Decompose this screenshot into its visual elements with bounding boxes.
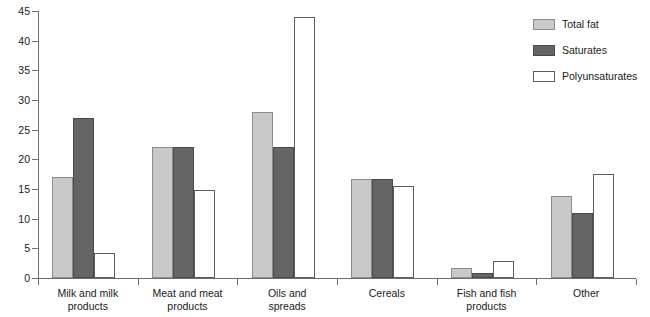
bar-total-fat <box>451 268 472 278</box>
y-axis-tick-label: 40 <box>4 36 30 46</box>
bar-group <box>437 11 537 278</box>
x-axis-tick <box>38 279 39 285</box>
x-axis-tick <box>337 279 338 285</box>
bar-polyunsaturates <box>194 190 215 278</box>
x-axis-tick <box>138 279 139 285</box>
bar-saturates <box>173 147 194 278</box>
legend-label: Total fat <box>562 19 599 30</box>
y-axis-tick-label: 20 <box>4 154 30 164</box>
x-axis-category-label-line: products <box>38 300 138 313</box>
x-axis-category-label-line: Meat and meat <box>138 287 238 300</box>
y-axis-tick-label: 30 <box>4 95 30 105</box>
legend-item[interactable]: Saturates <box>533 44 650 56</box>
legend-item[interactable]: Polyunsaturates <box>533 70 650 82</box>
bar-total-fat <box>52 177 73 278</box>
x-axis-category-label: Cereals <box>337 287 437 300</box>
bar-saturates <box>572 213 593 278</box>
x-axis-category-label-line: Milk and milk <box>38 287 138 300</box>
y-axis-tick-label: 10 <box>4 214 30 224</box>
legend-swatch-total-fat <box>533 19 555 30</box>
bar-total-fat <box>252 112 273 278</box>
y-axis-tick-label: 5 <box>4 243 30 253</box>
bar-saturates <box>273 147 294 278</box>
legend-swatch-saturates <box>533 45 555 56</box>
bar-total-fat <box>351 179 372 278</box>
x-axis-category-label-line: Cereals <box>337 287 437 300</box>
x-axis-category-label: Fish and fishproducts <box>437 287 537 312</box>
bar-polyunsaturates <box>94 253 115 278</box>
bar-polyunsaturates <box>393 186 414 278</box>
y-axis-tick-label: 25 <box>4 125 30 135</box>
x-axis-category-label: Oils andspreads <box>237 287 337 312</box>
x-axis-tick <box>237 279 238 285</box>
bar-polyunsaturates <box>294 17 315 278</box>
bar-chart: 051015202530354045 Milk and milkproducts… <box>0 0 650 317</box>
bar-total-fat <box>152 147 173 278</box>
x-axis-category-label: Milk and milkproducts <box>38 287 138 312</box>
bar-group <box>337 11 437 278</box>
bar-group <box>237 11 337 278</box>
x-axis-tick <box>536 279 537 285</box>
y-axis-tick-label: 15 <box>4 184 30 194</box>
x-axis-category-label-line: spreads <box>237 300 337 313</box>
legend-label: Polyunsaturates <box>562 71 637 82</box>
legend-label: Saturates <box>562 45 607 56</box>
x-axis-category-label-line: Other <box>536 287 636 300</box>
y-axis-tick-label: 0 <box>4 273 30 283</box>
bar-saturates <box>472 273 493 278</box>
x-axis-category-label-line: products <box>138 300 238 313</box>
bar-saturates <box>372 179 393 278</box>
bar-polyunsaturates <box>593 174 614 278</box>
x-axis-tick <box>636 279 637 285</box>
x-axis-category-label-line: Oils and <box>237 287 337 300</box>
y-axis-tick-label: 45 <box>4 6 30 16</box>
x-axis-category-label: Other <box>536 287 636 300</box>
chart-legend: Total fatSaturatesPolyunsaturates <box>533 18 650 96</box>
x-axis-category-label-line: products <box>437 300 537 313</box>
bar-group <box>138 11 238 278</box>
bar-total-fat <box>551 196 572 278</box>
bar-saturates <box>73 118 94 278</box>
x-axis-category-label-line: Fish and fish <box>437 287 537 300</box>
legend-item[interactable]: Total fat <box>533 18 650 30</box>
y-axis-tick-label: 35 <box>4 65 30 75</box>
bar-polyunsaturates <box>493 261 514 278</box>
x-axis-category-label: Meat and meatproducts <box>138 287 238 312</box>
x-axis-tick <box>437 279 438 285</box>
bar-group <box>38 11 138 278</box>
legend-swatch-polyunsaturates <box>533 71 555 82</box>
